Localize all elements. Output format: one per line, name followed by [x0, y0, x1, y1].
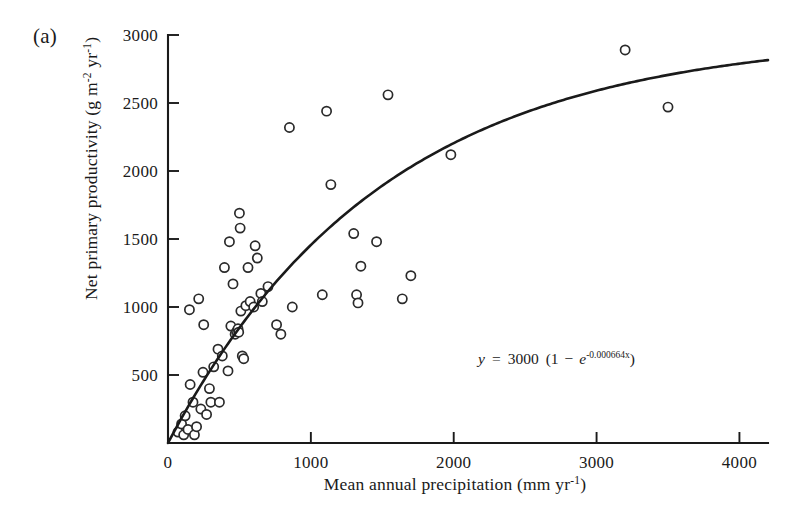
- data-point: [236, 224, 245, 233]
- y-tick-label: 2000: [123, 162, 158, 181]
- data-point: [276, 330, 285, 339]
- x-tick-label: 3000: [579, 453, 614, 472]
- x-axis-tick-labels: 01000200030004000: [164, 453, 757, 472]
- data-point: [185, 305, 194, 314]
- data-point: [235, 209, 244, 218]
- y-tick-label: 1000: [123, 298, 158, 317]
- data-point: [406, 271, 415, 280]
- scatter-plot: 50010001500200025003000 0100020003000400…: [0, 0, 801, 507]
- data-point: [194, 294, 203, 303]
- data-point: [251, 241, 260, 250]
- data-point: [621, 45, 630, 54]
- data-point: [225, 237, 234, 246]
- svg-text:Mean annual precipitation (mm: Mean annual precipitation (mm yr-1): [324, 474, 586, 494]
- data-point: [326, 180, 335, 189]
- data-point: [205, 384, 214, 393]
- data-point: [215, 398, 224, 407]
- data-point: [663, 102, 672, 111]
- x-axis-title: Mean annual precipitation (mm yr-1): [324, 474, 586, 494]
- y-tick-label: 3000: [123, 26, 158, 45]
- data-point: [288, 302, 297, 311]
- y-tick-label: 2500: [123, 94, 158, 113]
- data-point: [285, 123, 294, 132]
- x-tick-label: 1000: [293, 453, 328, 472]
- data-point: [192, 422, 201, 431]
- data-point: [383, 90, 392, 99]
- y-tick-label: 500: [132, 366, 158, 385]
- figure-panel: (a) 50010001500200025003000 010002000300…: [0, 0, 801, 507]
- x-tick-label: 2000: [436, 453, 471, 472]
- data-point: [202, 410, 211, 419]
- data-point: [356, 262, 365, 271]
- data-point: [349, 229, 358, 238]
- data-point: [199, 320, 208, 329]
- svg-text:y=3000(1−e-0.000664x): y=3000(1−e-0.000664x): [476, 350, 635, 368]
- data-point: [372, 237, 381, 246]
- axis-spines: [168, 35, 768, 443]
- data-point: [398, 294, 407, 303]
- data-point: [220, 263, 229, 272]
- data-point: [243, 263, 252, 272]
- data-point: [228, 279, 237, 288]
- axis-tick-marks: [168, 35, 739, 443]
- data-point: [272, 320, 281, 329]
- data-point: [318, 290, 327, 299]
- y-axis-tick-labels: 50010001500200025003000: [123, 26, 158, 385]
- data-points: [173, 45, 672, 439]
- data-point: [322, 107, 331, 116]
- data-point: [223, 366, 232, 375]
- svg-text:Net primary productivity (g m-: Net primary productivity (g m-2 yr-1): [81, 37, 101, 300]
- data-point: [186, 380, 195, 389]
- data-point: [446, 150, 455, 159]
- x-tick-label: 0: [164, 453, 173, 472]
- data-point: [253, 253, 262, 262]
- data-point: [353, 298, 362, 307]
- y-axis-title: Net primary productivity (g m-2 yr-1): [81, 37, 101, 300]
- x-tick-label: 4000: [722, 453, 757, 472]
- y-tick-label: 1500: [123, 230, 158, 249]
- data-point: [239, 354, 248, 363]
- equation-annotation: y=3000(1−e-0.000664x): [476, 350, 635, 368]
- fitted-curve: [168, 60, 768, 443]
